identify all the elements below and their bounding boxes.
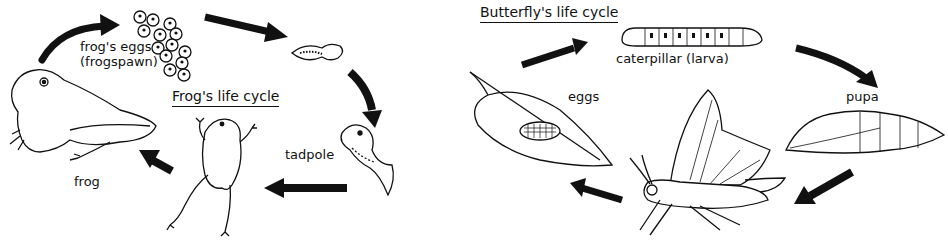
arrow-eggs-to-embryo: [205, 17, 288, 42]
arrow-caterpillar-to-pupa: [796, 48, 878, 88]
arrow-pupa-to-adult: [794, 172, 852, 204]
frog-eggs-label-line1: frog's eggs: [80, 40, 158, 55]
froglet-icon: [167, 118, 257, 236]
tadpole-icon: [341, 125, 393, 195]
caterpillar-icon: [622, 28, 762, 46]
butterfly-eggs-label: eggs: [568, 90, 599, 105]
frog-cycle-title: Frog's life cycle: [172, 88, 279, 107]
frog-eggs-label: frog's eggs (frogspawn): [80, 40, 158, 70]
butterfly-icon: [630, 90, 785, 235]
caterpillar-label: caterpillar (larva): [616, 52, 729, 67]
frog-eggs-label-line2: (frogspawn): [80, 55, 158, 70]
adult-frog-icon: [10, 70, 156, 160]
pupa-label: pupa: [846, 90, 879, 105]
pupa-icon: [786, 111, 944, 153]
arrow-eggs-to-caterpillar: [522, 38, 588, 65]
arrow-tadpole-to-froglet: [264, 178, 347, 198]
butterfly-cycle-title: Butterfly's life cycle: [480, 4, 618, 23]
arrow-adult-to-eggs: [570, 178, 622, 200]
frog-label: frog: [74, 175, 100, 190]
arrow-froglet-to-frog: [139, 150, 172, 171]
life-cycle-artwork: [0, 0, 948, 252]
arrow-embryo-to-tadpole: [350, 72, 382, 128]
tadpole-label: tadpole: [285, 148, 334, 163]
frog-embryo-icon: [292, 44, 343, 59]
leaf-with-eggs-icon: [470, 72, 612, 166]
